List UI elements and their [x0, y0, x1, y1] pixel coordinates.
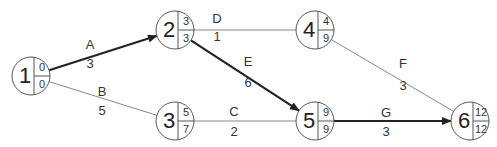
- node-late-time: 12: [475, 123, 487, 135]
- node-late-time: 3: [183, 32, 189, 44]
- node-late-time: 0: [39, 78, 45, 90]
- edge-duration: 3: [382, 124, 389, 139]
- edge-label: A: [86, 37, 95, 52]
- node-id: 2: [163, 17, 175, 42]
- node-late-time: 9: [323, 123, 329, 135]
- edge-duration: 1: [213, 29, 220, 44]
- node-id: 5: [303, 108, 315, 133]
- edge-duration: 3: [86, 56, 93, 71]
- edge-duration: 2: [230, 124, 237, 139]
- network-diagram: 10023335744959961212 A3B5D1E6C2F3G3: [0, 0, 497, 147]
- node-late-time: 7: [183, 123, 189, 135]
- node-2: 233: [156, 11, 194, 49]
- node-1: 100: [12, 57, 50, 95]
- node-id: 4: [303, 17, 315, 42]
- node-id: 6: [458, 108, 470, 133]
- node-id: 1: [19, 63, 31, 88]
- edge-duration: 5: [98, 103, 105, 118]
- node-early-time: 9: [323, 106, 329, 118]
- node-early-time: 5: [183, 106, 189, 118]
- node-5: 599: [296, 102, 334, 140]
- edge-f: [331, 40, 453, 112]
- edge-a: [49, 36, 157, 70]
- node-early-time: 0: [39, 61, 45, 73]
- edge-label: G: [381, 105, 391, 120]
- edge-label: C: [229, 104, 238, 119]
- edge-label: B: [98, 84, 107, 99]
- edge-duration: 6: [244, 75, 251, 90]
- edge-duration: 3: [399, 78, 406, 93]
- node-late-time: 9: [323, 32, 329, 44]
- node-early-time: 12: [475, 106, 487, 118]
- node-id: 3: [163, 108, 175, 133]
- node-6: 61212: [451, 102, 489, 140]
- edge-label: D: [212, 11, 221, 26]
- node-early-time: 3: [183, 15, 189, 27]
- node-4: 449: [296, 11, 334, 49]
- node-3: 357: [156, 102, 194, 140]
- edge-label: F: [399, 56, 407, 71]
- node-early-time: 4: [323, 15, 329, 27]
- edge-label: E: [244, 54, 253, 69]
